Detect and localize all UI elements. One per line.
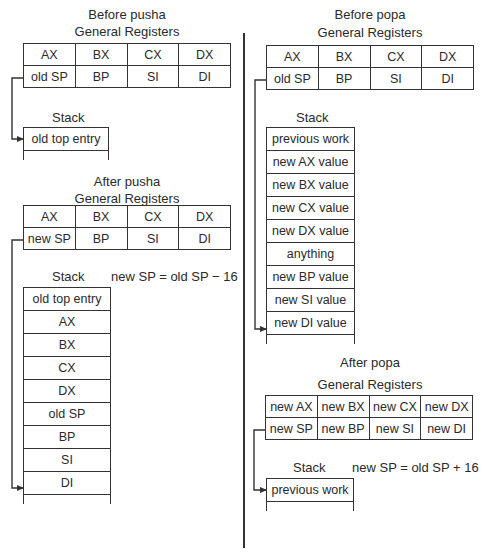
sp-pointer-arrows xyxy=(0,0,483,553)
arrow-icon xyxy=(12,78,24,139)
arrow-icon xyxy=(12,240,24,488)
arrow-icon xyxy=(254,430,266,490)
arrow-icon xyxy=(255,80,267,329)
